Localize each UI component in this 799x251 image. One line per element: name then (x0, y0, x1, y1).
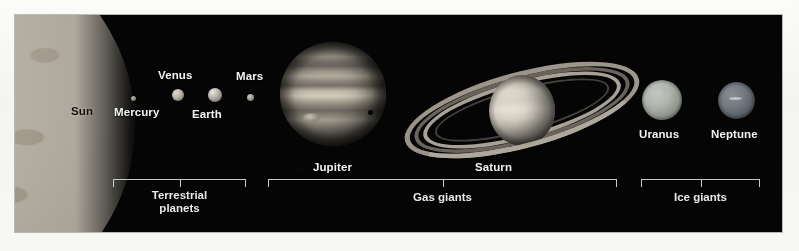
bracket-stem (180, 179, 181, 187)
photo-plate: Sun Mercury Venus Earth Mars Jupiter Sat… (15, 15, 782, 232)
group-caption-terrestrial-line2: planets (159, 202, 199, 214)
bracket-ice-giants (641, 179, 760, 187)
bracket-cap-left (641, 179, 642, 187)
neptune-cloud-band (729, 97, 742, 100)
solar-system-scale-figure: Sun Mercury Venus Earth Mars Jupiter Sat… (0, 0, 799, 251)
group-caption-gas-giants: Gas giants (268, 191, 617, 204)
bracket-cap-left (113, 179, 114, 187)
bracket-stem (701, 179, 702, 187)
planet-neptune (718, 82, 755, 119)
label-jupiter: Jupiter (313, 161, 352, 173)
planet-uranus (642, 80, 682, 120)
group-caption-terrestrial: Terrestrial planets (113, 189, 246, 215)
label-neptune: Neptune (711, 128, 758, 140)
bracket-cap-right (759, 179, 760, 187)
label-venus: Venus (158, 69, 192, 81)
planet-jupiter (280, 42, 386, 146)
label-uranus: Uranus (639, 128, 679, 140)
jupiter-great-red-spot (303, 113, 320, 122)
saturn-ring-foreground-arc (395, 41, 648, 177)
label-saturn: Saturn (475, 161, 512, 173)
label-mercury: Mercury (114, 106, 159, 118)
jupiter-moon-shadow (368, 110, 373, 115)
bracket-terrestrial-planets (113, 179, 246, 187)
planet-earth (208, 88, 222, 102)
label-mars: Mars (236, 70, 263, 82)
group-caption-ice-giants: Ice giants (641, 191, 760, 204)
planet-mars (247, 94, 254, 101)
label-earth: Earth (192, 108, 222, 120)
bracket-stem (443, 179, 444, 187)
bracket-cap-left (268, 179, 269, 187)
planet-saturn (397, 37, 647, 182)
planet-mercury (131, 96, 136, 101)
planet-venus (172, 89, 184, 101)
bracket-cap-right (245, 179, 246, 187)
bracket-gas-giants (268, 179, 617, 187)
group-caption-terrestrial-line1: Terrestrial (152, 189, 207, 201)
label-sun: Sun (71, 105, 93, 117)
bracket-cap-right (616, 179, 617, 187)
